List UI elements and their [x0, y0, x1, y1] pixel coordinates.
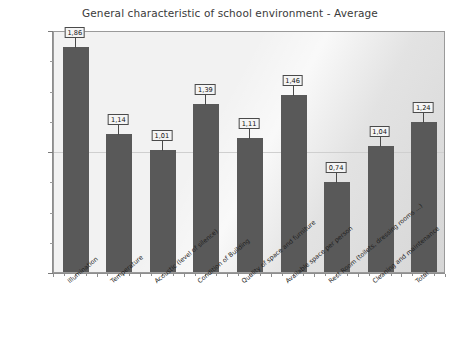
value-label-stem [293, 85, 294, 96]
x-tick-minor [173, 274, 174, 276]
value-label-stem [423, 112, 424, 123]
bar-value-label: 1,04 [369, 126, 390, 137]
gridline [54, 31, 444, 32]
y-tick-minor [50, 61, 53, 62]
x-tick-mark [401, 274, 402, 277]
x-tick-mark [445, 274, 446, 277]
x-tick-minor [216, 274, 217, 276]
x-tick-minor [282, 274, 283, 276]
y-tick-minor [50, 243, 53, 244]
y-tick-minor [50, 182, 53, 183]
value-label-stem [336, 172, 337, 183]
x-tick-minor [412, 274, 413, 276]
x-tick-minor [391, 274, 392, 276]
x-tick-minor [129, 274, 130, 276]
chart-title: General characteristic of school environ… [0, 7, 460, 19]
x-tick-minor [303, 274, 304, 276]
bar-value-label: 1,14 [108, 114, 129, 125]
x-tick-minor [369, 274, 370, 276]
bar [106, 134, 132, 272]
x-tick-minor [107, 274, 108, 276]
x-tick-mark [184, 274, 185, 277]
x-tick-minor [260, 274, 261, 276]
value-label-stem [249, 128, 250, 139]
x-tick-minor [325, 274, 326, 276]
x-tick-mark [140, 274, 141, 277]
value-label-stem [380, 136, 381, 147]
bar [63, 47, 89, 272]
x-tick-minor [434, 274, 435, 276]
x-tick-mark [53, 274, 54, 277]
x-tick-minor [195, 274, 196, 276]
value-label-stem [205, 94, 206, 105]
x-tick-minor [86, 274, 87, 276]
bar-value-label: 1,01 [152, 130, 173, 141]
y-tick-mark [48, 152, 53, 153]
y-tick-minor [50, 213, 53, 214]
x-tick-mark [97, 274, 98, 277]
bar-value-label: 1,46 [282, 75, 303, 86]
bar [368, 146, 394, 272]
chart-figure: General characteristic of school environ… [0, 0, 460, 347]
bar-value-label: 1,39 [195, 84, 216, 95]
x-tick-mark [358, 274, 359, 277]
bar-value-label: 1,86 [64, 27, 85, 38]
bar [150, 150, 176, 272]
value-label-stem [162, 140, 163, 151]
bar-value-label: 1,24 [413, 102, 434, 113]
x-tick-minor [64, 274, 65, 276]
y-tick-mark [48, 31, 53, 32]
bar [237, 138, 263, 272]
bar-value-label: 1,11 [239, 118, 260, 129]
x-tick-minor [347, 274, 348, 276]
value-label-stem [118, 124, 119, 135]
y-tick-minor [50, 92, 53, 93]
x-tick-mark [227, 274, 228, 277]
value-label-stem [75, 37, 76, 48]
x-tick-mark [314, 274, 315, 277]
x-tick-mark [271, 274, 272, 277]
x-tick-minor [151, 274, 152, 276]
bar-value-label: 0,74 [326, 162, 347, 173]
y-tick-minor [50, 122, 53, 123]
x-tick-minor [238, 274, 239, 276]
